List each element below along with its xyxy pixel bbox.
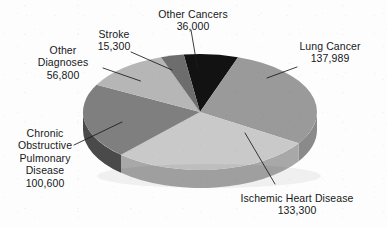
label-copd-name-line1: Chronic (18, 127, 72, 139)
pie-top-face (83, 54, 317, 170)
label-lung-cancer: Lung Cancer 137,989 (299, 40, 360, 65)
label-ischemic-name: Ischemic Heart Disease (240, 192, 353, 204)
label-stroke-value: 15,300 (98, 40, 131, 52)
label-ischemic-heart-disease: Ischemic Heart Disease 133,300 (240, 192, 353, 217)
label-copd-name-line2: Obstructive (18, 139, 72, 151)
label-lung-cancer-name: Lung Cancer (299, 40, 360, 52)
label-ischemic-value: 133,300 (240, 204, 353, 216)
label-stroke-name: Stroke (98, 28, 131, 40)
label-other-diagnoses-name-line1: Other (38, 44, 89, 56)
label-other-diagnoses-name-line2: Diagnoses (38, 56, 89, 68)
label-other-cancers-value: 36,000 (158, 20, 228, 32)
pie-chart-figure: Other Cancers 36,000 Stroke 15,300 Other… (0, 0, 387, 228)
label-other-cancers: Other Cancers 36,000 (158, 8, 228, 33)
label-other-cancers-name: Other Cancers (158, 8, 228, 20)
label-stroke: Stroke 15,300 (98, 28, 131, 53)
label-lung-cancer-value: 137,989 (299, 52, 360, 64)
label-copd-value: 100,600 (18, 177, 72, 189)
label-copd: Chronic Obstructive Pulmonary Disease 10… (18, 127, 72, 189)
pie-drop-shadow (97, 164, 321, 188)
label-other-diagnoses-value: 56,800 (38, 69, 89, 81)
label-copd-name-line3: Pulmonary (18, 152, 72, 164)
label-copd-name-line4: Disease (18, 164, 72, 176)
label-other-diagnoses: Other Diagnoses 56,800 (38, 44, 89, 81)
